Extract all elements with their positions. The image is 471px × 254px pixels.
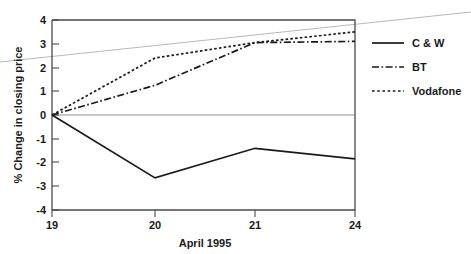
- y-tick-label: -1: [36, 133, 46, 145]
- legend-label: Vodafone: [412, 85, 461, 97]
- x-tick-label: 21: [249, 219, 261, 231]
- y-tick-label: -3: [36, 180, 46, 192]
- x-axis-title: April 1995: [179, 237, 232, 249]
- x-tick-label: 24: [349, 219, 362, 231]
- x-tick-label: 19: [46, 219, 58, 231]
- line-chart: 4 3 2 1 0 -1 -2 -3 -4 19 20 21 24 April …: [0, 0, 471, 254]
- y-tick-label: 0: [40, 109, 46, 121]
- y-tick-label: -2: [36, 156, 46, 168]
- legend-label: BT: [412, 61, 427, 73]
- y-tick-label: 4: [40, 14, 47, 26]
- y-axis-title: % Change in closing price: [12, 47, 24, 184]
- chart-canvas: 4 3 2 1 0 -1 -2 -3 -4 19 20 21 24 April …: [0, 0, 471, 254]
- y-tick-label: 1: [40, 85, 46, 97]
- legend-label: C & W: [412, 37, 445, 49]
- y-tick-label: 3: [40, 38, 46, 50]
- x-tick-label: 20: [149, 219, 161, 231]
- y-tick-label: 2: [40, 62, 46, 74]
- y-tick-label: -4: [36, 204, 47, 216]
